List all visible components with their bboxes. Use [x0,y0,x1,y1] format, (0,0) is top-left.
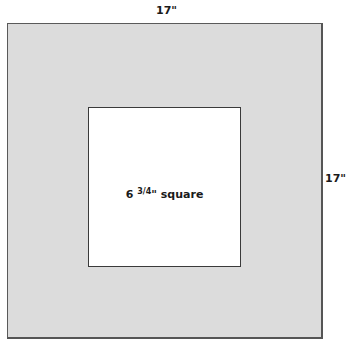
inner-label-suffix: " square [151,188,203,201]
inner-square: 6 3/4" square [88,107,241,267]
inner-label-whole: 6 [126,188,134,201]
outer-height-label: 17" [325,172,346,185]
inner-label-fraction: 3/4 [137,187,151,196]
inner-square-label: 6 3/4" square [89,187,240,201]
outer-width-label: 17" [156,4,177,17]
